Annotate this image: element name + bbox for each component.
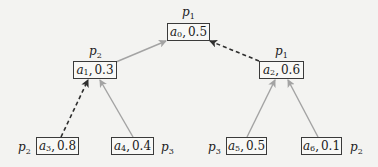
player-label-a1: p2 (89, 45, 102, 57)
tree-diagram: p1 a0,0.5 p2 a1,0.3 p1 a2,0.6 p2 a3,0.8 … (0, 0, 378, 167)
player-label-a2: p1 (275, 45, 288, 57)
player-label-a6: p2 (350, 141, 363, 153)
player-label-a3: p2 (18, 141, 31, 153)
player-label-a0: p1 (182, 6, 195, 18)
node-a3: a3,0.8 (36, 137, 79, 155)
node-a6: a6,0.1 (301, 137, 342, 155)
node-a2: a2,0.6 (259, 61, 304, 79)
player-label-a4: p3 (161, 141, 174, 153)
node-a5: a5,0.5 (226, 137, 267, 155)
edge-a1-to-a0 (116, 41, 166, 62)
edge-a3-to-a1 (61, 80, 88, 137)
node-a1: a1,0.3 (73, 61, 117, 79)
edge-a4-to-a1 (100, 80, 133, 137)
node-a4: a4,0.4 (111, 137, 154, 155)
edge-a5-to-a2 (247, 80, 275, 137)
edge-a2-to-a0 (210, 41, 259, 61)
node-a0: a0,0.5 (167, 23, 210, 41)
edge-a6-to-a2 (288, 80, 318, 137)
player-label-a5: p3 (208, 141, 221, 153)
